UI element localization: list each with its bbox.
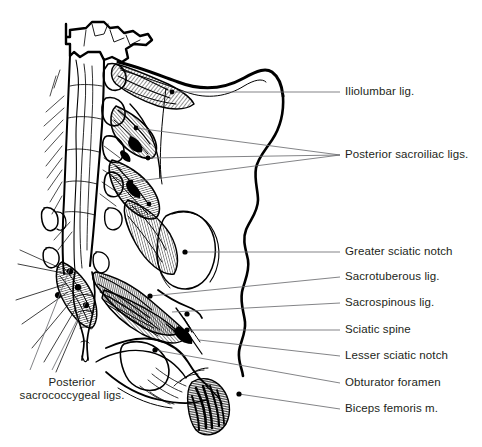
iliolumbar-ligament — [112, 64, 195, 109]
dot-greater-sciatic-notch — [182, 249, 187, 254]
leader-psi-3 — [131, 155, 340, 182]
dot-psi-mid — [146, 156, 151, 161]
biceps-femoris-muscle — [174, 368, 229, 435]
dot-sacrotuberous — [147, 293, 152, 298]
dot-obturator-foramen — [152, 347, 157, 352]
skeletal-outlines — [16, 22, 283, 435]
leader-obturator-foramen — [155, 350, 340, 383]
leader-psi-1 — [136, 128, 340, 155]
label-lesser-sciatic-notch: Lesser sciatic notch — [345, 349, 448, 362]
label-sacrotuberous-lig: Sacrotuberous lig. — [345, 270, 440, 283]
leader-sacrococcygeal-1 — [30, 268, 70, 370]
leader-sacrococcygeal-2 — [52, 302, 86, 370]
dot-psi-lower — [129, 180, 134, 185]
posterior-sacrococcygeal-ligaments — [16, 250, 97, 372]
label-biceps-femoris-m: Biceps femoris m. — [345, 402, 438, 415]
dot-psi-upper — [134, 126, 139, 131]
leader-lesser-sciatic-notch — [199, 340, 340, 356]
lumbar-vertebra-group — [66, 22, 152, 62]
anatomy-figure: Iliolumbar lig. Posterior sacroiliac lig… — [0, 0, 482, 447]
dot-sciatic-spine — [184, 327, 189, 332]
label-sacrospinous-lig: Sacrospinous lig. — [345, 296, 434, 309]
leader-sacrospinous — [172, 303, 340, 312]
leader-biceps-femoris — [239, 394, 340, 409]
sacrum-body — [63, 56, 105, 274]
label-greater-sciatic-notch: Greater sciatic notch — [345, 245, 453, 258]
leader-psi-2 — [148, 155, 340, 158]
label-iliolumbar-lig: Iliolumbar lig. — [345, 85, 414, 98]
dot-sciatic-notch-upper — [147, 202, 152, 207]
dot-iliolumbar — [170, 90, 175, 95]
dot-biceps-femoris — [236, 391, 241, 396]
label-posterior-sacrococcygeal-ligs: Posterior sacrococcygeal ligs. — [12, 376, 132, 402]
dot-sacrospinous — [184, 311, 189, 316]
label-posterior-sacroiliac-ligs: Posterior sacroiliac ligs. — [345, 148, 468, 161]
label-sciatic-spine: Sciatic spine — [345, 323, 411, 336]
label-obturator-foramen: Obturator foramen — [345, 376, 441, 389]
